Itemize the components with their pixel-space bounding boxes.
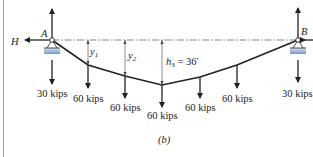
label-y2: y2 xyxy=(127,50,137,63)
load-label-1: 60 kips xyxy=(73,93,104,104)
figure-caption: (b) xyxy=(158,134,171,146)
load-label-2: 60 kips xyxy=(110,102,141,113)
load-label-5: 60 kips xyxy=(222,93,253,104)
load-label-4: 60 kips xyxy=(185,102,216,113)
load-label-a: 30 kips xyxy=(37,88,68,99)
dimension-h3 xyxy=(161,40,164,85)
cable-diagram: A H 30 kips B 30 kips y1 y2 h3 = 36′ 60 xyxy=(0,0,313,157)
support-base-icon xyxy=(290,48,306,54)
load-label-3: 60 kips xyxy=(147,110,178,121)
support-b xyxy=(290,8,313,82)
label-h-left: H xyxy=(10,36,20,47)
support-base-icon xyxy=(44,48,60,54)
dimension-y2 xyxy=(124,40,127,76)
support-a xyxy=(25,9,60,84)
load-label-b: 30 kips xyxy=(282,88,313,99)
label-a: A xyxy=(40,28,48,39)
label-b: B xyxy=(301,26,308,37)
label-h3: h3 = 36′ xyxy=(166,56,199,69)
label-y1: y1 xyxy=(89,46,98,59)
